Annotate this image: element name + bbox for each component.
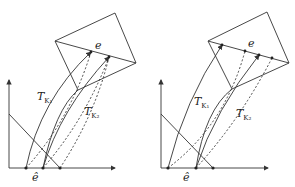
ref-edge-label: ê (183, 172, 190, 183)
ref-edge-label: ê (32, 172, 39, 183)
t-k1-label: TK₁ (194, 96, 209, 110)
map-curve-k2-b (196, 58, 272, 168)
edge-e-label: e (248, 38, 255, 49)
physical-quadrilateral (208, 12, 289, 89)
reference-hypotenuse (161, 114, 213, 168)
map-curve-k2 (26, 52, 91, 168)
diagram-canvas: e ê TK₁ TK₂ e ê TK₁ TK₂ (0, 0, 295, 187)
t-k2-label: TK₂ (84, 106, 99, 120)
right-panel (161, 12, 289, 170)
t-k2-label: TK₂ (236, 108, 251, 122)
left-panel (9, 13, 136, 170)
map-curve-k1 (26, 52, 91, 168)
edge-e-label: e (95, 40, 102, 51)
t-k1-label: TK₁ (37, 91, 52, 105)
